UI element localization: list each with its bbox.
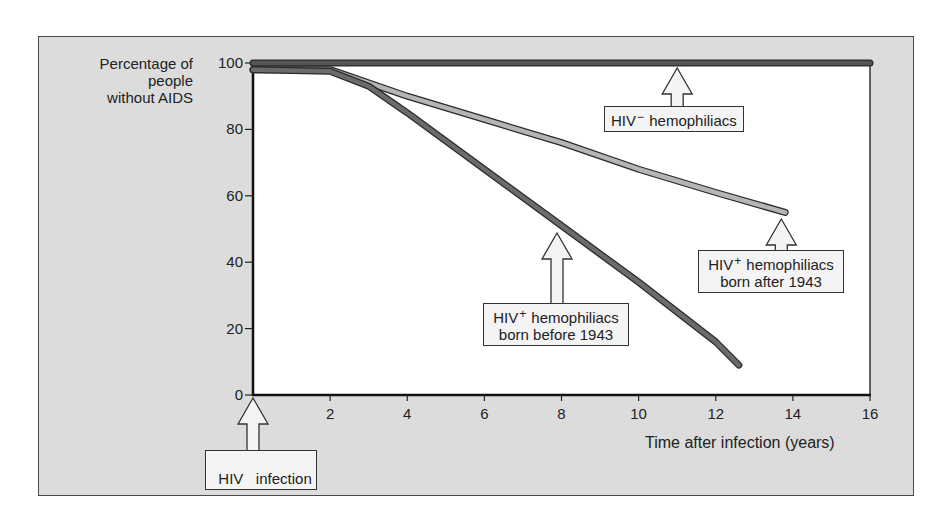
x-tick-label: 2 <box>326 405 334 422</box>
x-tick-label: 6 <box>480 405 488 422</box>
callout-hiv-positive-before-1943: HIV+ hemophiliacs born before 1943 <box>483 303 629 346</box>
x-tick-label: 10 <box>630 405 647 422</box>
y-axis-title-line1: Percentage of <box>58 55 193 72</box>
y-axis-title-line2: people <box>58 72 193 89</box>
y-axis-title-line3: without AIDS <box>58 89 193 106</box>
y-axis-title: Percentage of people without AIDS <box>58 55 193 106</box>
y-tick-label: 40 <box>226 253 243 270</box>
y-tick-label: 80 <box>226 120 243 137</box>
callout-hiv-negative: HIV− hemophiliacs <box>604 106 744 132</box>
y-tick-label: 100 <box>218 54 243 71</box>
x-tick-label: 4 <box>403 405 411 422</box>
x-axis-title: Time after infection (years) <box>645 434 835 452</box>
y-tick-label: 20 <box>226 320 243 337</box>
callout-hiv-positive-after-1943: HIV+ hemophiliacs born after 1943 <box>698 250 844 293</box>
arrow-icon-hiv-infection <box>238 398 268 451</box>
y-tick-label: 0 <box>235 386 243 403</box>
x-tick-label: 14 <box>785 405 802 422</box>
callout-hiv-infection: HIV infection <box>205 450 317 490</box>
x-tick-label: 12 <box>707 405 724 422</box>
x-tick-label: 16 <box>862 405 879 422</box>
x-tick-label: 8 <box>557 405 565 422</box>
y-tick-label: 60 <box>226 187 243 204</box>
